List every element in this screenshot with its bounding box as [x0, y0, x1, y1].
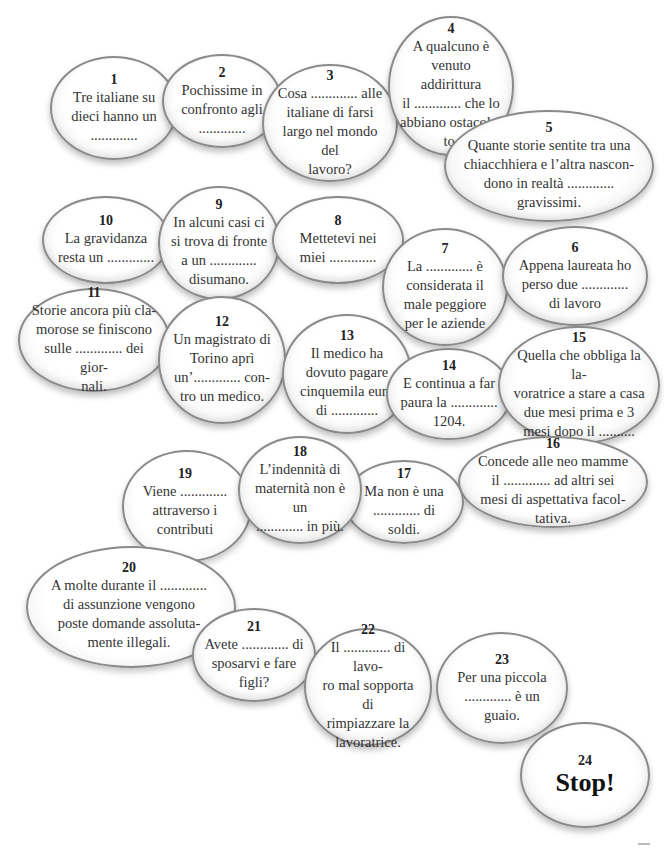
bubble-number: 19 [178, 466, 192, 482]
bubble-text: Mettetevi nei miei ............. [300, 229, 377, 267]
bubble-number: 15 [572, 330, 586, 346]
bubble-text: Per una piccola ............. è un guaio… [457, 668, 546, 725]
bubble-1: 1 Tre italiane su dieci hanno un .......… [50, 56, 178, 160]
bubble-5: 5 Quante storie sentite tra una chiacchh… [444, 110, 654, 222]
bubble-number: 13 [340, 328, 354, 344]
bubble-3: 3 Cosa ............. alle italiane di fa… [262, 64, 398, 182]
bubble-number: 22 [361, 622, 375, 638]
bubble-number: 6 [572, 240, 579, 256]
bubble-17: 17 Ma non è una ............. di soldi. [344, 460, 464, 544]
page-mark [638, 843, 650, 845]
bubble-number: 1 [111, 72, 118, 88]
bubble-text: Il ............. di lavo- ro mal sopport… [316, 638, 420, 752]
bubble-number: 16 [546, 436, 560, 452]
bubble-text: Quella che obbliga la la- voratrice a st… [510, 346, 648, 441]
bubble-text: Quante storie sentite tra una chiacchhie… [464, 136, 634, 212]
bubble-number: 14 [442, 358, 456, 374]
bubble-text: Avete ............. di sposarvi e fare f… [204, 635, 303, 692]
bubble-text: Il medico ha dovuto pagare cinquemila eu… [300, 344, 394, 420]
bubble-text: Concede alle neo mamme il ............. … [478, 452, 628, 528]
bubble-number: 7 [442, 241, 449, 257]
stop-label: Stop! [555, 769, 614, 797]
bubble-number: 20 [122, 560, 136, 576]
bubble-number: 21 [247, 619, 261, 635]
bubble-text: Un magistrato di Torino aprì un’........… [173, 330, 270, 406]
bubble-7: 7 La ............. è considerata il male… [382, 228, 508, 346]
bubble-number: 5 [546, 120, 553, 136]
bubble-text: Storie ancora più cla- morose se finisco… [30, 301, 158, 396]
bubble-text: Cosa ............. alle italiane di fars… [274, 84, 386, 179]
bubble-text: Appena laureata ho perso due ...........… [519, 256, 632, 313]
bubble-18: 18 L’indennità di maternità non è un ...… [238, 436, 362, 544]
bubble-16: 16 Concede alle neo mamme il ...........… [458, 436, 648, 528]
bubble-number: 4 [448, 21, 455, 37]
bubble-15: 15 Quella che obbliga la la- voratrice a… [498, 326, 660, 444]
bubble-number: 8 [335, 213, 342, 229]
bubble-10: 10 La gravidanza resta un ............. [42, 196, 170, 284]
bubble-9: 9 In alcuni casi ci si trova di fronte a… [158, 186, 280, 300]
bubble-number: 2 [219, 65, 226, 81]
bubble-text: La gravidanza resta un ............. [58, 229, 154, 267]
bubble-text: La ............. è considerata il male p… [404, 257, 487, 333]
bubble-text: E continua a far paura la ............. … [400, 374, 497, 431]
bubble-number: 24 [578, 753, 592, 769]
bubble-number: 11 [87, 285, 100, 301]
bubble-number: 3 [327, 68, 334, 84]
bubble-number: 18 [293, 444, 307, 460]
bubble-12: 12 Un magistrato di Torino aprì un’.....… [158, 296, 286, 424]
bubble-14: 14 E continua a far paura la ...........… [386, 348, 512, 440]
bubble-number: 17 [397, 466, 411, 482]
bubble-22: 22 Il ............. di lavo- ro mal sopp… [304, 628, 432, 746]
bubble-23: 23 Per una piccola ............. è un gu… [436, 632, 568, 744]
bubble-number: 12 [215, 314, 229, 330]
bubble-text: A molte durante il ............. di assu… [51, 576, 207, 652]
bubble-text: Ma non è una ............. di soldi. [356, 482, 452, 539]
bubble-text: Pochissime in confronto agli ...........… [181, 81, 263, 138]
bubble-text: Viene ............. attraverso i contrib… [143, 482, 228, 539]
bubble-text: L’indennità di maternità non è un ......… [250, 460, 350, 536]
bubble-11: 11 Storie ancora più cla- morose se fini… [18, 288, 170, 392]
bubble-21: 21 Avete ............. di sposarvi e far… [192, 608, 316, 702]
bubble-24: 24 Stop! [520, 722, 650, 828]
bubble-number: 10 [99, 213, 113, 229]
bubble-number: 9 [216, 197, 223, 213]
bubble-19: 19 Viene ............. attraverso i cont… [130, 466, 240, 539]
bubble-text: In alcuni casi ci si trova di fronte a u… [171, 213, 267, 289]
bubble-number: 23 [495, 652, 509, 668]
bubble-text: Tre italiane su dieci hanno un .........… [71, 88, 156, 145]
bubble-6: 6 Appena laureata ho perso due .........… [502, 226, 648, 326]
